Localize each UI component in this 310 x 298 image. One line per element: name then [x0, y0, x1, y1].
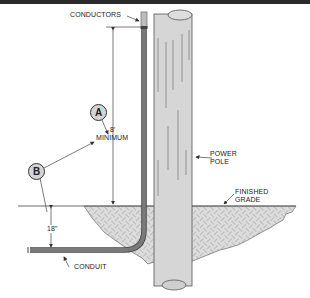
- power-pole-label-line1: POWER: [210, 150, 237, 158]
- conductors-label: CONDUCTORS: [70, 11, 121, 19]
- power-pole: [154, 10, 192, 290]
- power-pole-label-line2: POLE: [210, 158, 229, 166]
- dimension-8ft-value: 8': [110, 126, 115, 134]
- dimension-8ft-note: MINIMUM: [96, 134, 128, 142]
- diagram-graphics: [0, 0, 310, 298]
- finished-grade-label-line2: GRADE: [235, 196, 260, 204]
- conduit-pole-diagram: CONDUCTORS A 8' MINIMUM B POWER POLE FIN…: [0, 0, 310, 298]
- finished-grade-label-line1: FINISHED: [235, 188, 268, 196]
- dimension-18in-value: 18": [46, 225, 59, 233]
- callout-b: B: [28, 163, 45, 180]
- conduit-label: CONDUIT: [74, 263, 107, 271]
- callout-a: A: [90, 104, 107, 121]
- dimension-8ft: [106, 27, 140, 204]
